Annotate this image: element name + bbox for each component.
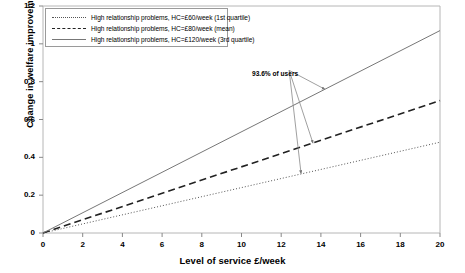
legend-item-1: High relationship problems, HC=£80/week … (52, 23, 235, 34)
legend-swatch-dashed-icon (52, 24, 86, 33)
annotation-leader-line (289, 70, 301, 173)
welfare-improvement-line-chart: Change in welfare improvement Level of s… (0, 0, 465, 273)
series-line (43, 142, 440, 233)
legend-label-0: High relationship problems, HC=£60/week … (91, 14, 250, 21)
legend-swatch-solid-icon (52, 35, 86, 44)
annotation-percent-users: 93.6% of users (252, 70, 298, 77)
series-line (43, 101, 440, 233)
annotation-leader-lines (289, 70, 325, 173)
legend-item-0: High relationship problems, HC=£60/week … (52, 12, 250, 23)
legend-item-2: High relationship problems, HC=£120/week… (52, 34, 254, 45)
legend-swatch-dotted-icon (52, 13, 86, 22)
data-series-group (43, 31, 440, 233)
legend: High relationship problems, HC=£60/week … (45, 8, 228, 47)
legend-label-1: High relationship problems, HC=£80/week … (91, 25, 235, 32)
legend-label-2: High relationship problems, HC=£120/week… (91, 36, 254, 43)
series-line (43, 31, 440, 233)
